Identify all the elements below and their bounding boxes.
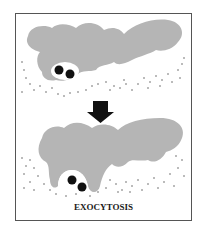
diagram-caption: EXOCYTOSIS	[15, 202, 192, 212]
arrow-down-icon	[87, 101, 114, 123]
particle-bottom-2	[78, 183, 87, 192]
cell-top	[27, 20, 182, 81]
particle-top-2	[66, 70, 75, 79]
particle-top-1	[55, 66, 64, 75]
exocytosis-diagram	[0, 0, 200, 236]
particle-bottom-1	[68, 176, 77, 185]
